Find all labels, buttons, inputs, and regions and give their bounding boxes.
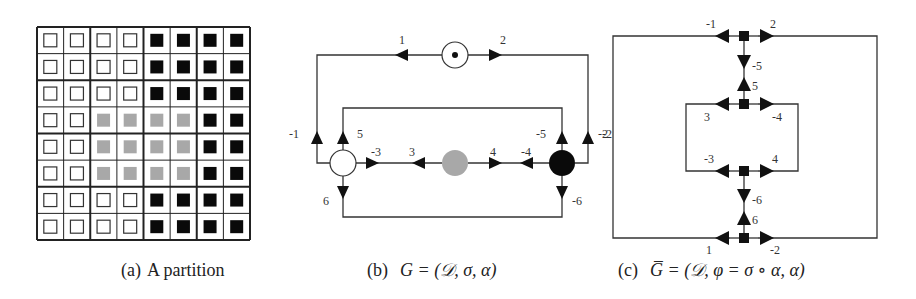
panel-a-partition-grid — [37, 27, 250, 240]
grid-cell-black — [204, 194, 217, 207]
label-dart-m5: -5 — [536, 127, 546, 141]
vertex-square-3 — [739, 166, 749, 176]
arrow-dart-5 — [337, 131, 349, 144]
arrow-dart-2 — [760, 29, 774, 43]
grid-cell-black — [204, 114, 217, 127]
grid-cell-black — [204, 167, 217, 180]
grid-cell-white — [70, 167, 83, 180]
arrow-dart-m6 — [737, 189, 751, 203]
node-top-dot — [452, 52, 458, 58]
grid-cell-black — [204, 87, 217, 100]
grid-cell-white — [44, 87, 57, 100]
grid-cell-black — [204, 220, 217, 233]
grid-cell-black — [150, 60, 163, 73]
grid-cell-white — [44, 220, 57, 233]
grid-cell-white — [124, 34, 137, 47]
label-dart-3: 3 — [409, 145, 415, 159]
label-dart-m5: -5 — [752, 59, 762, 73]
edge-inner-top — [343, 108, 562, 150]
grid-cell-white — [97, 87, 110, 100]
label-dart-m3: -3 — [704, 152, 714, 166]
grid-cell-gray — [150, 167, 163, 180]
arrow-dart-m1 — [311, 131, 323, 144]
grid-cell-white — [124, 87, 137, 100]
grid-cell-black — [177, 34, 190, 47]
caption-b-tag: (b) — [367, 260, 388, 281]
grid-cell-white — [44, 60, 57, 73]
arrow-dart-3 — [715, 97, 729, 111]
grid-cell-white — [124, 194, 137, 207]
label-dart-2: 2 — [500, 33, 506, 47]
label-dart-m4: -4 — [521, 145, 531, 159]
caption-c-math: G̅ = (𝒟, φ = σ ∘ α, α) — [650, 260, 805, 281]
caption-c-tag: (c) — [618, 260, 638, 281]
grid-cell-white — [44, 34, 57, 47]
grid-cell-gray — [150, 114, 163, 127]
label-dart-1: 1 — [399, 33, 405, 47]
arrow-dart-m3 — [715, 164, 729, 178]
grid-cell-white — [97, 60, 110, 73]
label-dart-5: 5 — [752, 79, 758, 93]
grid-cell-white — [70, 220, 83, 233]
grid-cell-black — [177, 87, 190, 100]
grid-cell-white — [124, 220, 137, 233]
grid-cell-black — [150, 220, 163, 233]
grid-cell-black — [230, 140, 243, 153]
grid-cell-white — [44, 140, 57, 153]
figure: (a) A partition 1 2 -1 — [0, 0, 916, 299]
grid-cell-black — [177, 60, 190, 73]
arrow-dart-m5 — [556, 131, 568, 144]
grid-cell-white — [97, 194, 110, 207]
grid-cell-white — [70, 194, 83, 207]
label-dart-m6: -6 — [752, 193, 762, 207]
vertex-square-1 — [739, 31, 749, 41]
grid-cell-white — [70, 60, 83, 73]
grid-cell-gray — [97, 140, 110, 153]
grid-cell-black — [177, 220, 190, 233]
arrow-dart-m6 — [556, 186, 568, 199]
grid-cell-black — [204, 34, 217, 47]
grid-cell-black — [177, 194, 190, 207]
grid-cell-white — [97, 220, 110, 233]
grid-cell-white — [44, 114, 57, 127]
grid-cell-white — [44, 194, 57, 207]
grid-cell-black — [230, 220, 243, 233]
arrow-dart-1 — [715, 231, 729, 245]
panel-b-combinatorial-map: 1 2 -1 5 -5 -2 -3 3 4 -4 6 -6 — [289, 33, 612, 217]
label-dart-m1: -1 — [706, 17, 716, 31]
arrow-dart-5 — [737, 77, 751, 91]
grid-cell-black — [230, 114, 243, 127]
arrow-dart-m4 — [760, 97, 774, 111]
arrow-dart-6 — [737, 211, 751, 225]
vertex-square-4 — [739, 233, 749, 243]
label-dart-5: 5 — [357, 127, 363, 141]
grid-cell-black — [230, 194, 243, 207]
arrow-dart-2 — [489, 49, 502, 61]
grid-cell-gray — [124, 167, 137, 180]
label-dart-m4: -4 — [772, 110, 782, 124]
label-dart-2: 2 — [770, 17, 776, 31]
label-dart-4: 4 — [490, 145, 496, 159]
grid-cell-white — [70, 87, 83, 100]
grid-cell-gray — [97, 114, 110, 127]
grid-cell-gray — [177, 114, 190, 127]
panel-c-dual-map: -1 2 -5 5 3 -4 -3 4 -6 6 1 -2 -2 — [598, 17, 877, 257]
arrow-dart-1 — [395, 49, 408, 61]
label-left-m2: -2 — [598, 127, 608, 141]
grid-cell-black — [204, 60, 217, 73]
grid-cell-white — [70, 114, 83, 127]
grid-cell-black — [204, 140, 217, 153]
grid-cell-white — [44, 167, 57, 180]
vertex-square-2 — [739, 99, 749, 109]
grid-cell-white — [124, 60, 137, 73]
label-dart-m1: -1 — [289, 127, 299, 141]
edge-outer-left — [613, 36, 730, 238]
caption-b-math: G = (𝒟, σ, α) — [400, 260, 496, 281]
arrow-dart-m1 — [715, 29, 729, 43]
grid-cell-white — [97, 34, 110, 47]
grid-cell-black — [230, 87, 243, 100]
caption-a-tag: (a) — [121, 260, 141, 281]
arrow-dart-6 — [337, 186, 349, 199]
node-gray — [442, 150, 468, 176]
grid-cell-gray — [97, 167, 110, 180]
